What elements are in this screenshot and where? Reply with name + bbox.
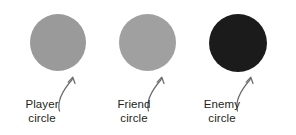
- friend-label-line-1: Friend: [108, 97, 160, 111]
- player-label-line-2: circle: [16, 111, 68, 125]
- enemy-label-line-2: circle: [196, 111, 248, 125]
- circle-legend-diagram: Player circle Friend circle Enemy circle: [0, 0, 296, 135]
- friend-circle-label: Friend circle: [108, 97, 160, 125]
- friend-label-line-2: circle: [108, 111, 160, 125]
- player-label-line-1: Player: [16, 97, 68, 111]
- enemy-circle-label: Enemy circle: [196, 97, 248, 125]
- player-circle-shape: [30, 14, 86, 71]
- friend-circle-shape: [119, 14, 176, 71]
- enemy-label-line-1: Enemy: [196, 97, 248, 111]
- enemy-circle-shape: [209, 14, 267, 72]
- player-circle-label: Player circle: [16, 97, 68, 125]
